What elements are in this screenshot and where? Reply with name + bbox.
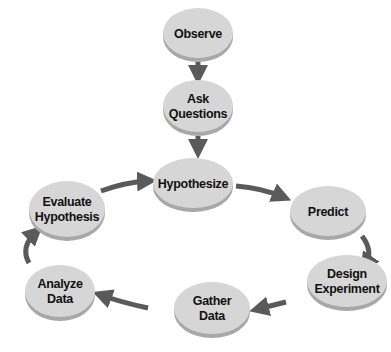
- arrow-gather-data-to-analyze-data: [101, 295, 148, 308]
- node-label: Data: [199, 309, 226, 323]
- node-gather-data: GatherData: [174, 282, 250, 338]
- node-label: Ask: [187, 92, 209, 106]
- node-label: Gather: [193, 294, 232, 308]
- arrow-analyze-data-to-evaluate-hypothesis: [26, 232, 36, 263]
- node-evaluate-hypothesis: EvaluateHypothesis: [29, 181, 105, 241]
- scientific-method-diagram: ObserveAskQuestionsHypothesizeEvaluateHy…: [0, 0, 391, 352]
- diagram-canvas: ObserveAskQuestionsHypothesizeEvaluateHy…: [0, 0, 391, 352]
- node-analyze-data: AnalyzeData: [25, 265, 95, 321]
- node-face: [307, 255, 387, 307]
- node-label: Evaluate: [42, 195, 91, 209]
- node-hypothesize: Hypothesize: [153, 158, 233, 212]
- node-label: Analyze: [37, 277, 82, 291]
- node-label: Experiment: [314, 282, 380, 296]
- node-label: Questions: [169, 107, 228, 121]
- node-ask-questions: AskQuestions: [163, 80, 233, 136]
- node-label: Design: [327, 267, 367, 281]
- node-face: [25, 265, 95, 317]
- node-face: [174, 282, 250, 334]
- node-design-experiment: DesignExperiment: [307, 255, 387, 311]
- node-label: Observe: [174, 27, 222, 41]
- node-label: Predict: [308, 205, 349, 219]
- node-label: Hypothesize: [158, 177, 229, 191]
- nodes: ObserveAskQuestionsHypothesizeEvaluateHy…: [25, 8, 387, 338]
- arrow-design-experiment-to-gather-data: [258, 302, 286, 309]
- arrow-hypothesize-to-predict: [236, 186, 283, 197]
- node-face: [163, 80, 233, 132]
- node-face: [29, 181, 105, 237]
- node-label: Hypothesis: [35, 210, 100, 224]
- node-label: Data: [47, 292, 74, 306]
- node-observe: Observe: [163, 8, 233, 62]
- node-predict: Predict: [290, 186, 366, 240]
- arrow-evaluate-hypothesis-to-hypothesize: [101, 181, 148, 191]
